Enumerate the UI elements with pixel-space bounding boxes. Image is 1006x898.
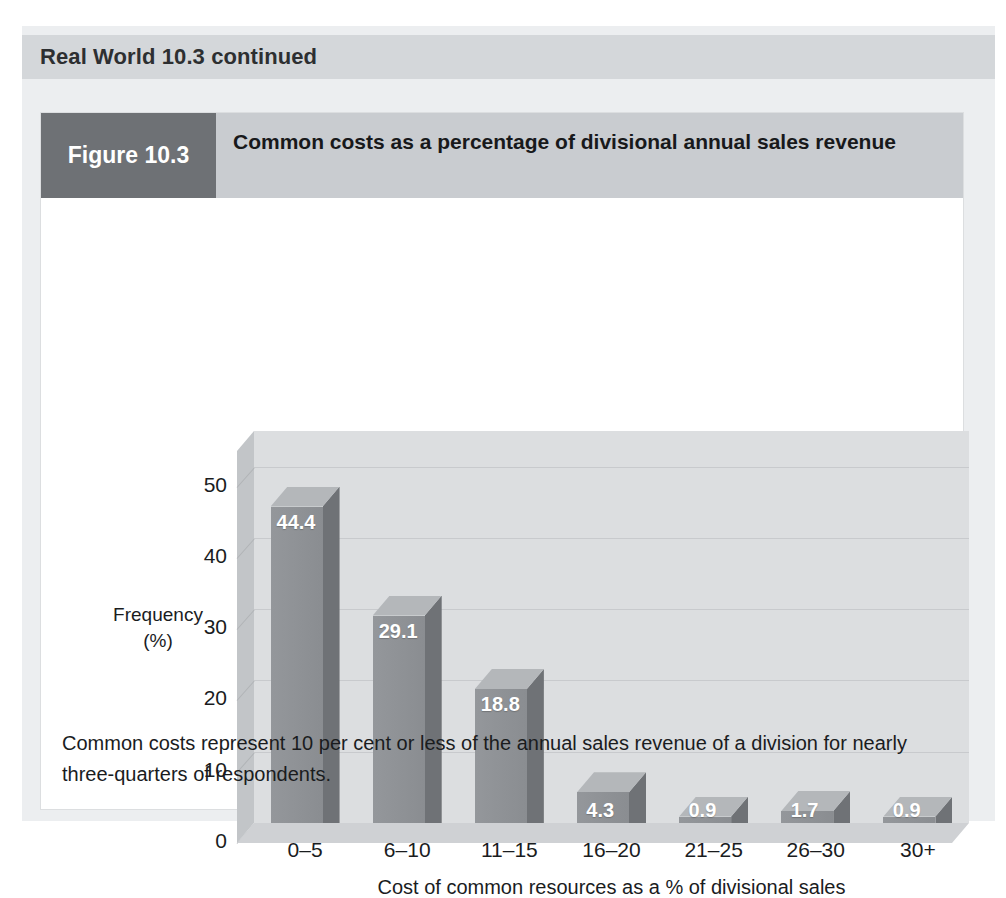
- bar-value-label-26–30: 1.7: [791, 799, 819, 822]
- bar-value-label-30+: 0.9: [893, 799, 921, 822]
- gridline-20: [254, 680, 969, 681]
- real-world-banner: Real World 10.3 continued: [22, 35, 995, 79]
- x-axis-label: Cost of common resources as a % of divis…: [254, 876, 969, 898]
- x-tick-label-26–30: 26–30: [761, 838, 871, 862]
- x-tick-label-0–5: 0–5: [250, 838, 360, 862]
- bar-front-face: [373, 616, 425, 823]
- y-axis-label: Frequency (%): [93, 602, 223, 654]
- y-tick-label-50: 50: [181, 473, 227, 497]
- bar-chart: 44.429.118.84.30.91.70.9 01020304050 Fre…: [41, 198, 963, 708]
- y-tick-label-40: 40: [181, 544, 227, 568]
- x-tick-label-30+: 30+: [863, 838, 973, 862]
- bar-value-label-16–20: 4.3: [586, 799, 614, 822]
- bar-value-label-21–25: 0.9: [689, 799, 717, 822]
- figure-number-tag: Figure 10.3: [41, 113, 216, 198]
- x-tick-label-16–20: 16–20: [557, 838, 667, 862]
- figure-caption: Common costs represent 10 per cent or le…: [62, 728, 942, 790]
- figure-header: Figure 10.3 Common costs as a percentage…: [41, 113, 963, 198]
- y-tick-label-0: 0: [181, 829, 227, 853]
- bar-value-label-11–15: 18.8: [481, 693, 520, 716]
- gridline-30: [254, 609, 969, 610]
- real-world-banner-title: Real World 10.3 continued: [40, 44, 317, 70]
- y-axis-label-line2: (%): [93, 628, 223, 654]
- x-tick-label-11–15: 11–15: [454, 838, 564, 862]
- y-axis-label-line1: Frequency: [93, 602, 223, 628]
- x-tick-label-21–25: 21–25: [659, 838, 769, 862]
- x-tick-label-6–10: 6–10: [352, 838, 462, 862]
- gridline-40: [254, 538, 969, 539]
- y-tick-label-20: 20: [181, 686, 227, 710]
- bar-value-label-6–10: 29.1: [379, 620, 418, 643]
- gridline-50: [254, 467, 969, 468]
- bar-value-label-0–5: 44.4: [277, 511, 316, 534]
- figure-title: Common costs as a percentage of division…: [233, 127, 933, 156]
